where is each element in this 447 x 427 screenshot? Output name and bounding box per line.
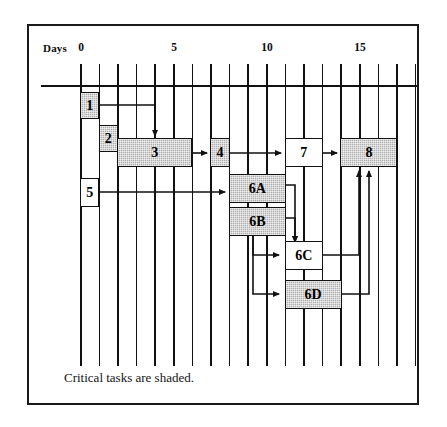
task-bar-3[interactable]: 3 <box>117 138 192 167</box>
task-bar-6b-label: 6B <box>249 215 265 229</box>
gridline-day-6 <box>192 64 194 366</box>
gridline-day-3 <box>136 64 138 366</box>
gridline-day-5 <box>173 64 175 366</box>
dependency-links <box>29 26 421 407</box>
gridline-day-15 <box>359 64 361 366</box>
gridline-day-7 <box>210 64 212 366</box>
task-bar-6a-label: 6A <box>249 182 266 196</box>
task-bar-1-label: 1 <box>86 99 93 113</box>
gridline-day-13 <box>322 64 324 366</box>
task-bar-2[interactable]: 2 <box>99 125 118 152</box>
figure-frame: Days 0 5 10 15 <box>27 24 419 405</box>
link-6d-to-8 <box>341 171 369 294</box>
tick-label-5: 5 <box>171 41 177 53</box>
axis-title-days: Days <box>43 42 67 54</box>
axis-baseline <box>41 85 417 87</box>
task-bar-6b[interactable]: 6B <box>229 207 286 236</box>
gridline-day-17 <box>396 64 398 366</box>
task-bar-8-label: 8 <box>365 146 372 160</box>
gridline-day-12 <box>303 64 305 366</box>
tick-label-0: 0 <box>78 41 84 53</box>
link-6a-to-6c <box>285 185 295 242</box>
task-bar-6c-label: 6C <box>295 249 312 263</box>
task-bar-6c[interactable]: 6C <box>285 241 324 270</box>
gridline-day-4 <box>154 64 156 366</box>
task-bar-3-label: 3 <box>151 146 158 160</box>
gridline-day-14 <box>340 64 342 366</box>
task-bar-4-label: 4 <box>216 146 223 160</box>
gantt-chart-figure: Days 0 5 10 15 <box>0 0 447 427</box>
task-bar-5-label: 5 <box>86 186 93 200</box>
task-bar-6a[interactable]: 6A <box>229 174 286 203</box>
task-bar-6d[interactable]: 6D <box>285 280 342 309</box>
tick-label-15: 15 <box>354 41 366 53</box>
task-bar-2-label: 2 <box>105 132 112 146</box>
gridline-day-18 <box>415 64 417 366</box>
task-bar-7[interactable]: 7 <box>285 138 324 167</box>
task-bar-7-label: 7 <box>300 146 307 160</box>
chart-plot-area: Days 0 5 10 15 <box>29 26 421 407</box>
task-bar-8[interactable]: 8 <box>340 138 397 167</box>
link-6b-to-6c <box>285 218 295 242</box>
task-bar-1[interactable]: 1 <box>80 92 99 119</box>
gridline-day-2 <box>117 64 119 366</box>
task-bar-6d-label: 6D <box>305 288 322 302</box>
task-bar-5[interactable]: 5 <box>80 178 99 207</box>
task-bar-4[interactable]: 4 <box>210 138 229 167</box>
figure-caption: Critical tasks are shaded. <box>64 370 194 386</box>
tick-label-10: 10 <box>261 41 273 53</box>
gridline-day-16 <box>378 64 380 366</box>
